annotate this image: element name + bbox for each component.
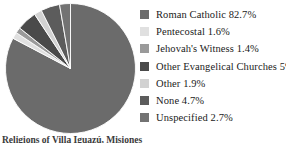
legend-swatch-icon — [140, 96, 149, 105]
legend-swatch-icon — [140, 79, 149, 88]
legend-item: Other Evangelical Churches 5% — [139, 58, 286, 75]
legend-swatch-icon — [140, 10, 149, 19]
legend-swatch-icon — [140, 44, 149, 53]
pie-chart-figure: Roman Catholic 82.7%Pentecostal 1.6%Jeho… — [0, 0, 286, 143]
figure-caption: Religions of Villa Iguazú, Misiones — [2, 135, 286, 143]
chart-legend: Roman Catholic 82.7%Pentecostal 1.6%Jeho… — [139, 6, 286, 131]
legend-item-label: Other 1.9% — [156, 78, 205, 89]
legend-item-label: Unspecified 2.7% — [156, 112, 233, 123]
legend-item-label: Pentecostal 1.6% — [156, 26, 230, 37]
legend-item: Jehovah's Witness 1.4% — [139, 40, 286, 57]
legend-item: Roman Catholic 82.7% — [139, 6, 286, 23]
legend-item-label: Other Evangelical Churches 5% — [156, 61, 286, 72]
pie-svg — [5, 3, 136, 134]
pie-slice-group — [5, 4, 135, 134]
legend-item: Pentecostal 1.6% — [139, 23, 286, 40]
legend-item-label: None 4.7% — [156, 95, 204, 106]
legend-item: None 4.7% — [139, 92, 286, 109]
legend-swatch-icon — [140, 62, 149, 71]
legend-item: Other 1.9% — [139, 75, 286, 92]
legend-swatch-icon — [140, 113, 149, 122]
legend-item-label: Jehovah's Witness 1.4% — [156, 43, 259, 54]
pie-plot-area — [5, 3, 136, 134]
legend-item: Unspecified 2.7% — [139, 109, 286, 126]
legend-item-label: Roman Catholic 82.7% — [156, 9, 256, 20]
legend-swatch-icon — [140, 27, 149, 36]
